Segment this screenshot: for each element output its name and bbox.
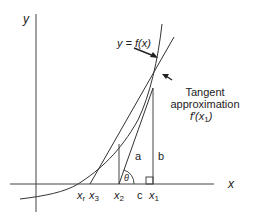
segment-a-label: a [135, 150, 141, 162]
y-axis-label: y [23, 13, 29, 25]
theta-label: θ [124, 172, 129, 184]
tangent-label-line1: Tangent [175, 86, 235, 98]
tick-xr: xr [77, 189, 85, 205]
tick-x3: x3 [89, 189, 99, 205]
segment-a [119, 88, 153, 184]
right-angle-marker [146, 177, 153, 184]
tangent-label-line2: approximation [162, 98, 248, 110]
diagram-canvas [0, 0, 257, 222]
tangent-label-line3: f′(x1) [190, 110, 212, 126]
segment-b-label: b [158, 150, 164, 162]
tick-c: c [137, 189, 143, 201]
x-axis-label: x [228, 178, 234, 190]
tick-x1: x1 [149, 189, 159, 205]
curve-pointer-arrow [134, 48, 154, 56]
tick-x2: x2 [114, 189, 124, 205]
curve-label: y = f(x) [117, 37, 151, 49]
